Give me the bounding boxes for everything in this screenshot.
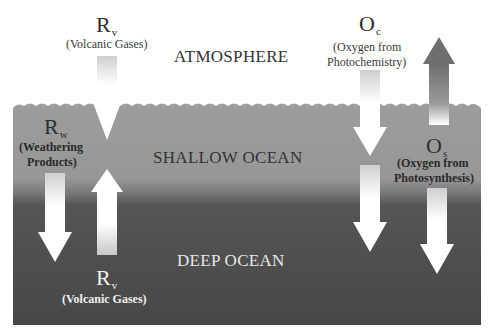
os-symbol-letter: O bbox=[426, 133, 442, 158]
oc-symbol: Oc bbox=[359, 13, 381, 37]
rw-subscript: w bbox=[60, 128, 68, 140]
rw-description-line1: (Weathering bbox=[19, 141, 83, 154]
rv-top-symbol-letter: R bbox=[96, 12, 111, 37]
rv-bottom-description: (Volcanic Gases) bbox=[62, 293, 147, 306]
rv-bottom-symbol-letter: R bbox=[96, 265, 111, 290]
atmosphere-label: ATMOSPHERE bbox=[174, 48, 288, 65]
oc-description-line2: Photochemistry) bbox=[327, 56, 406, 69]
rv-top-description: (Volcanic Gases) bbox=[66, 38, 147, 51]
oc-symbol-letter: O bbox=[359, 11, 375, 36]
rv-bottom-subscript: v bbox=[112, 279, 118, 291]
rv-bottom-symbol: Rv bbox=[96, 267, 117, 291]
deep-ocean-label: DEEP OCEAN bbox=[177, 252, 285, 269]
shallow-ocean-label: SHALLOW OCEAN bbox=[153, 149, 303, 166]
rv-top-symbol: Rv bbox=[96, 14, 117, 38]
oc-subscript: c bbox=[376, 25, 381, 37]
oc-description-line1: (Oxygen from bbox=[333, 41, 401, 54]
os-description-line1: (Oxygen from bbox=[397, 157, 468, 170]
rw-description-line2: Products) bbox=[27, 156, 77, 169]
rw-symbol-letter: R bbox=[44, 114, 59, 139]
os-description-line2: Photosynthesis) bbox=[394, 172, 474, 185]
rw-symbol: Rw bbox=[44, 116, 68, 140]
